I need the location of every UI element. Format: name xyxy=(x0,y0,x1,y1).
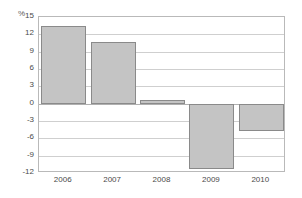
bar-2006 xyxy=(41,26,86,104)
bar-2010 xyxy=(239,104,284,132)
y-axis-tick-label: 12 xyxy=(4,29,34,37)
bar-2007 xyxy=(91,42,136,104)
y-axis-tick-label: 9 xyxy=(4,47,34,55)
bar-series xyxy=(39,17,284,171)
y-axis-tick-label: 6 xyxy=(4,64,34,72)
bar-chart: % 15129630-3-6-9-12 20062007200820092010 xyxy=(0,0,302,198)
y-axis-tick-label: -9 xyxy=(4,151,34,159)
bar-2008 xyxy=(140,100,185,103)
y-axis-tick-label: 15 xyxy=(4,12,34,20)
y-axis-tick-label: -6 xyxy=(4,133,34,141)
y-axis-tick-label: -12 xyxy=(4,168,34,176)
y-axis-tick-label: 0 xyxy=(4,99,34,107)
x-axis-tick-label: 2010 xyxy=(230,176,290,184)
y-axis-tick-label: 3 xyxy=(4,81,34,89)
bar-2009 xyxy=(189,104,234,169)
y-axis-tick-label: -3 xyxy=(4,116,34,124)
plot-area xyxy=(38,16,285,172)
